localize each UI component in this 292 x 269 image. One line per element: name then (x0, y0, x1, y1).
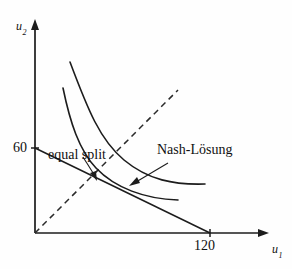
indifference-curve-upper (70, 62, 205, 184)
nash-leader-line (136, 163, 168, 182)
equal-split-annotation-label: equal split (48, 148, 106, 162)
x-axis-label-subscript: 1 (279, 251, 283, 260)
nash-leader-arrowhead (129, 177, 140, 186)
y-axis-label-base: u (16, 19, 22, 33)
nash-solution-annotation-label: Nash-Lösung (157, 143, 232, 157)
nash-bargaining-figure: u2 u1 60 120 equal split Nash-Lösung (0, 0, 292, 269)
y-axis-tick-label-60: 60 (13, 141, 27, 155)
x-axis-arrowhead (258, 229, 269, 237)
x-axis-tick-label-120: 120 (194, 239, 215, 253)
x-axis-label: u1 (272, 243, 282, 258)
figure-canvas (0, 0, 292, 269)
nash-leader-group (129, 163, 168, 186)
x-axis-label-base: u (272, 242, 278, 256)
y-axis-label-subscript: 2 (23, 28, 27, 37)
y-axis-label: u2 (16, 20, 26, 35)
y-axis-arrowhead (31, 19, 39, 30)
